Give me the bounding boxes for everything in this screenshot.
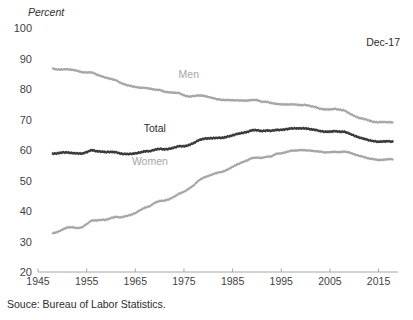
series-line-women <box>53 150 393 234</box>
series-group <box>53 68 393 233</box>
y-axis-tick-label: 40 <box>20 205 32 217</box>
y-axis-tick-label: 90 <box>20 53 32 65</box>
series-line-total <box>53 128 393 155</box>
x-axis-tick-label: 2005 <box>318 275 342 287</box>
x-axis-tick-label: 1995 <box>270 275 294 287</box>
x-axis-tick-label: 1975 <box>172 275 196 287</box>
x-axis-tick-label: 1985 <box>221 275 245 287</box>
axis-lines-group <box>38 269 398 273</box>
series-label-total: Total <box>144 122 166 134</box>
y-axis-tick-label: 100 <box>14 22 32 34</box>
x-axis-tick-group: 19451955196519751985199520052015 <box>26 275 390 287</box>
series-label-men: Men <box>179 68 200 80</box>
y-axis-tick-group: 2030405060708090100 <box>14 22 32 278</box>
x-axis-tick-label: 1945 <box>26 275 50 287</box>
labor-force-participation-chart: 2030405060708090100 19451955196519751985… <box>0 0 413 320</box>
source-note: Souce: Bureau of Labor Statistics. <box>7 298 166 310</box>
y-axis-tick-label: 30 <box>20 236 32 248</box>
x-axis-tick-label: 1955 <box>75 275 99 287</box>
y-axis-unit-label: Percent <box>28 6 65 18</box>
latest-period-annotation: Dec-17 <box>366 36 400 48</box>
x-axis-tick-label: 2015 <box>367 275 391 287</box>
x-axis-tick-label: 1965 <box>124 275 148 287</box>
chart-figure: 2030405060708090100 19451955196519751985… <box>0 0 413 320</box>
series-line-men <box>53 68 393 123</box>
y-axis-tick-label: 60 <box>20 144 32 156</box>
y-axis-tick-label: 50 <box>20 175 32 187</box>
series-label-women: Women <box>132 155 168 167</box>
y-axis-tick-label: 70 <box>20 114 32 126</box>
y-axis-tick-label: 80 <box>20 83 32 95</box>
